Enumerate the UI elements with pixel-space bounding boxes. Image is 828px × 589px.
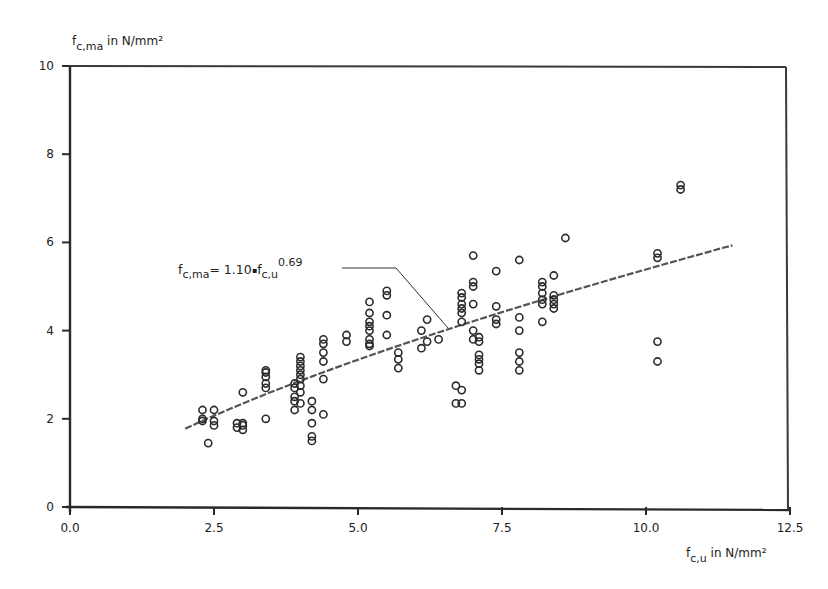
x-axis-ticks: 0.02.55.07.510.012.5 xyxy=(60,507,803,535)
data-point-marker xyxy=(493,303,500,310)
x-tick-label: 5.0 xyxy=(348,521,367,535)
data-point-marker xyxy=(366,298,373,305)
data-point-marker xyxy=(383,331,390,338)
right-frame xyxy=(786,67,788,510)
data-point-marker xyxy=(562,234,569,241)
data-point-marker xyxy=(516,314,523,321)
data-point-marker xyxy=(516,327,523,334)
y-axis-title: fc,ma in N/mm² xyxy=(72,34,163,53)
data-point-marker xyxy=(308,406,315,413)
data-point-marker xyxy=(199,406,206,413)
fit-equation-annotation: fc,ma= 1.10▪fc,u0.69 xyxy=(178,256,448,328)
y-tick-label: 4 xyxy=(46,324,54,338)
plot-frame xyxy=(66,66,790,512)
data-point-marker xyxy=(470,301,477,308)
data-point-marker xyxy=(366,309,373,316)
data-point-marker xyxy=(291,406,298,413)
annotation-leader-line xyxy=(342,268,448,328)
data-point-marker xyxy=(239,389,246,396)
data-point-marker xyxy=(516,256,523,263)
data-point-marker xyxy=(458,318,465,325)
data-point-marker xyxy=(383,312,390,319)
data-point-marker xyxy=(458,387,465,394)
data-point-marker xyxy=(435,336,442,343)
data-point-marker xyxy=(320,358,327,365)
y-tick-label: 6 xyxy=(46,235,54,249)
data-point-marker xyxy=(516,358,523,365)
data-point-marker xyxy=(493,268,500,275)
data-point-marker xyxy=(320,376,327,383)
x-tick-label: 0.0 xyxy=(60,521,79,535)
data-point-marker xyxy=(320,411,327,418)
scatter-chart: 0.02.55.07.510.012.5 0246810 fc,ma in N/… xyxy=(0,0,828,589)
x-tick-label: 2.5 xyxy=(204,521,223,535)
data-point-marker xyxy=(205,440,212,447)
data-point-marker xyxy=(418,327,425,334)
data-point-marker xyxy=(395,365,402,372)
x-tick-label: 12.5 xyxy=(777,521,804,535)
y-tick-label: 0 xyxy=(46,500,54,514)
data-point-marker xyxy=(320,349,327,356)
data-points xyxy=(199,182,684,447)
x-axis xyxy=(66,507,790,510)
data-point-marker xyxy=(550,272,557,279)
y-axis-ticks: 0246810 xyxy=(39,59,70,514)
y-tick-label: 8 xyxy=(46,147,54,161)
data-point-marker xyxy=(308,437,315,444)
data-point-marker xyxy=(654,358,661,365)
data-point-marker xyxy=(424,338,431,345)
y-tick-label: 10 xyxy=(39,59,54,73)
fit-equation-label: fc,ma= 1.10▪fc,u0.69 xyxy=(178,256,303,281)
data-point-marker xyxy=(262,415,269,422)
data-point-marker xyxy=(210,406,217,413)
x-tick-label: 7.5 xyxy=(492,521,511,535)
data-point-marker xyxy=(539,318,546,325)
top-frame xyxy=(66,66,786,67)
y-tick-label: 2 xyxy=(46,412,54,426)
data-point-marker xyxy=(308,398,315,405)
data-point-marker xyxy=(418,345,425,352)
data-point-marker xyxy=(308,420,315,427)
data-point-marker xyxy=(470,327,477,334)
data-point-marker xyxy=(516,349,523,356)
data-point-marker xyxy=(516,367,523,374)
data-point-marker xyxy=(366,318,373,325)
x-tick-label: 10.0 xyxy=(633,521,660,535)
data-point-marker xyxy=(424,316,431,323)
data-point-marker xyxy=(470,252,477,259)
x-axis-title: fc,u in N/mm² xyxy=(686,546,767,565)
data-point-marker xyxy=(654,338,661,345)
